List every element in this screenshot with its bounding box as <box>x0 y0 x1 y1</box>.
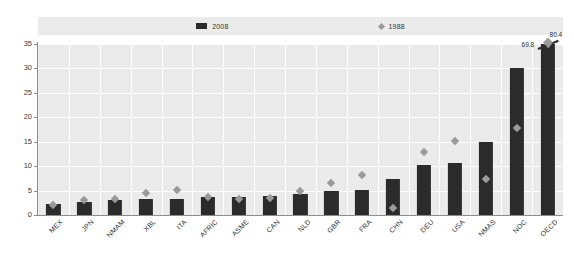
chart-category-group <box>501 44 532 215</box>
data-series-layer <box>38 44 563 215</box>
bar-2008 <box>510 68 524 215</box>
x-axis-label: MEX <box>48 218 64 234</box>
x-axis-label: NMAM <box>106 218 127 239</box>
y-tick-label: 35 <box>24 40 32 48</box>
marker-1988 <box>451 137 459 145</box>
chart-category-group <box>162 44 193 215</box>
marker-1988 <box>173 185 181 193</box>
chart-category-group <box>285 44 316 215</box>
chart-category-group <box>131 44 162 215</box>
x-axis-label: AFRIC <box>198 218 219 239</box>
bar-2008 <box>417 165 431 215</box>
x-axis-label: CAN <box>265 218 281 234</box>
bar-2008 <box>139 199 153 215</box>
x-axis-label: FRA <box>358 218 373 233</box>
legend-entry-1988: 1988 <box>379 23 405 30</box>
chart-category-group <box>378 44 409 215</box>
chart-category-group <box>316 44 347 215</box>
x-axis-label: CHN <box>388 218 404 234</box>
bar-2008 <box>540 44 554 215</box>
x-axis-label: ASME <box>230 218 250 238</box>
bar-2008 <box>293 194 307 215</box>
x-axis-label: GBR <box>326 218 342 234</box>
x-axis-label: JPN <box>81 218 96 233</box>
x-axis-label: NOC <box>511 218 527 234</box>
chart-category-group <box>254 44 285 215</box>
annotation-value-bar: 69.8 <box>522 42 535 49</box>
y-tick-label: 5 <box>28 187 32 195</box>
x-axis-label: ITA <box>175 218 188 231</box>
y-tick-label: 10 <box>24 162 32 170</box>
legend-entry-2008: 2008 <box>196 23 228 30</box>
square-marker-icon <box>196 23 207 29</box>
y-tick-label: 15 <box>24 138 32 146</box>
chart-category-group <box>347 44 378 215</box>
y-tick-label: 20 <box>24 114 32 122</box>
legend-label-1988: 1988 <box>389 23 405 30</box>
bar-2008 <box>77 202 91 215</box>
legend-label-2008: 2008 <box>212 23 228 30</box>
x-axis-label: OECD <box>539 218 559 238</box>
bar-2008 <box>355 190 369 215</box>
x-axis-label: DEU <box>419 218 435 234</box>
bar-2008 <box>324 191 338 215</box>
x-axis-labels: MEXJPNNMAMXBLITAAFRICASMECANNLDGBRFRACHN… <box>38 216 563 259</box>
chart-category-group <box>470 44 501 215</box>
marker-1988 <box>358 171 366 179</box>
chart-category-group <box>69 44 100 215</box>
chart-category-group <box>409 44 440 215</box>
marker-1988 <box>142 189 150 197</box>
diamond-marker-icon <box>377 22 384 29</box>
chart-figure: 2008 1988 05101520253035 80.469.8 MEXJPN… <box>0 0 574 259</box>
plot-area: 05101520253035 80.469.8 <box>38 44 563 215</box>
x-axis-label: NMAS <box>477 218 497 238</box>
chart-category-group <box>100 44 131 215</box>
x-axis-label: NLD <box>296 218 311 233</box>
marker-1988 <box>420 148 428 156</box>
chart-legend: 2008 1988 <box>38 17 563 35</box>
x-axis-label: XBL <box>142 218 157 233</box>
y-tick-label: 30 <box>24 65 32 73</box>
y-tick-label: 25 <box>24 89 32 97</box>
chart-category-group <box>223 44 254 215</box>
chart-category-group <box>532 44 563 215</box>
x-axis-label: USA <box>450 218 466 234</box>
marker-1988 <box>327 179 335 187</box>
annotation-value-high: 80.4 <box>550 32 563 39</box>
chart-category-group <box>439 44 470 215</box>
bar-2008 <box>448 163 462 215</box>
chart-category-group <box>38 44 69 215</box>
y-tick-label: 0 <box>28 211 32 219</box>
bar-2008 <box>170 199 184 215</box>
chart-category-group <box>192 44 223 215</box>
